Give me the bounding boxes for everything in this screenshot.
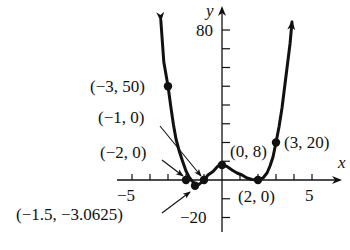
label-3-20: (3, 20) [284,133,329,152]
label-neg1-0: (−1, 0) [98,108,144,127]
leader-arrow-neg1-0 [160,126,201,176]
point-neg1.5 [191,182,199,190]
point-neg3-50 [164,82,172,90]
y-tick-label-neg20: −20 [180,208,207,227]
x-axis [117,174,340,180]
point-3-20 [272,138,280,146]
y-axis-label: y [204,1,214,20]
y-axis [222,8,230,232]
function-graph: x y −5 5 80 −20 (−3, 50) (−1, 0) (−2, 0)… [0,0,350,250]
label-neg3-50: (−3, 50) [90,77,145,96]
x-axis-label: x [337,153,346,172]
leader-arrow-neg2-0 [162,160,183,176]
x-tick-label-5: 5 [305,186,314,205]
label-neg1.5: (−1.5, −3.0625) [16,205,123,224]
label-2-0: (2, 0) [238,187,275,206]
label-0-8: (0, 8) [230,142,267,161]
point-neg1-0 [200,176,208,184]
label-neg2-0: (−2, 0) [100,143,146,162]
point-neg2-0 [182,176,190,184]
y-tick-label-80: 80 [196,21,213,40]
point-0-8 [218,161,226,169]
point-2-0 [254,176,262,184]
function-curve [161,20,292,185]
x-tick-label-neg5: −5 [117,186,135,205]
